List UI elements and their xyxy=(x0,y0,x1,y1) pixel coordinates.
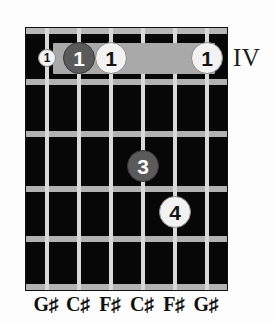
chord-diagram-page: 111134 IV G♯C♯F♯C♯F♯G♯ xyxy=(0,0,275,323)
fret-position-numeral: IV xyxy=(233,44,260,72)
fretboard: 111134 xyxy=(25,27,228,291)
sharp-icon: ♯ xyxy=(49,294,59,315)
note-label-string-1: G♯ xyxy=(29,293,63,316)
note-label-string-2: C♯ xyxy=(61,293,95,316)
note-letter: G xyxy=(33,293,49,315)
note-letter: F xyxy=(163,293,175,315)
fret-line-1 xyxy=(26,79,227,85)
marker-string6-fret1: 1 xyxy=(191,42,223,74)
note-letter: F xyxy=(99,293,111,315)
marker-string1-fret1: 1 xyxy=(38,49,56,67)
note-label-string-4: C♯ xyxy=(125,293,159,316)
note-labels-row: G♯C♯F♯C♯F♯G♯ xyxy=(25,293,228,321)
fret-line-5 xyxy=(26,284,227,290)
note-label-string-6: G♯ xyxy=(189,293,223,316)
fret-line-3 xyxy=(26,186,227,192)
sharp-icon: ♯ xyxy=(111,294,121,315)
sharp-icon: ♯ xyxy=(80,294,90,315)
marker-string4-fret3: 3 xyxy=(127,150,159,182)
marker-string5-fret4: 4 xyxy=(159,196,191,228)
string-line-1 xyxy=(45,28,49,290)
marker-string2-fret1: 1 xyxy=(63,42,95,74)
note-letter: G xyxy=(193,293,209,315)
note-letter: C xyxy=(130,293,144,315)
fret-line-4 xyxy=(26,236,227,242)
sharp-icon: ♯ xyxy=(209,294,219,315)
fret-line-2 xyxy=(26,131,227,137)
nut-line xyxy=(26,34,227,39)
marker-string3-fret1: 1 xyxy=(95,42,127,74)
note-label-string-3: F♯ xyxy=(93,293,127,316)
note-letter: C xyxy=(66,293,80,315)
note-label-string-5: F♯ xyxy=(157,293,191,316)
sharp-icon: ♯ xyxy=(175,294,185,315)
sharp-icon: ♯ xyxy=(144,294,154,315)
